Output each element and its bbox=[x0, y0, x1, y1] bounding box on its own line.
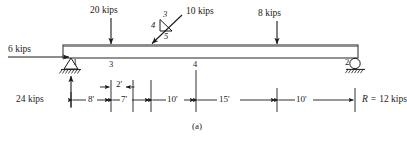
reaction-equals: = bbox=[371, 94, 376, 104]
load-label-20-kips: 20 kips bbox=[90, 6, 118, 16]
reaction-label-24-kips: 24 kips bbox=[16, 95, 44, 105]
load-label-6-kips: 6 kips bbox=[8, 45, 31, 55]
node-label-3: 3 bbox=[109, 60, 113, 69]
node-label-2: 2 bbox=[345, 58, 349, 67]
dimension-label-7ft: 7' bbox=[121, 95, 127, 104]
dimension-label-10ft-a: 10' bbox=[167, 95, 178, 104]
reaction-label-R: R=12 kips bbox=[362, 95, 407, 105]
reaction-symbol-R: R bbox=[362, 94, 368, 104]
load-label-8-kips: 8 kips bbox=[258, 9, 281, 19]
beam-body bbox=[63, 45, 358, 58]
dimension-label-8ft: 8' bbox=[88, 95, 94, 104]
dimension-label-2ft: 2' bbox=[116, 80, 122, 89]
node-label-1: 1 bbox=[73, 58, 77, 67]
load-label-10-kips: 10 kips bbox=[186, 7, 214, 17]
slope-rise-label: 3 bbox=[163, 10, 167, 19]
dimension-witness-lines bbox=[111, 70, 355, 112]
dimension-label-10ft-b: 10' bbox=[296, 95, 307, 104]
node-label-4: 4 bbox=[193, 60, 197, 69]
figure-caption: (a) bbox=[192, 122, 202, 131]
slope-triangle-graphic bbox=[160, 20, 172, 32]
slope-run-label: 4 bbox=[151, 21, 155, 30]
reaction-value: 12 kips bbox=[379, 94, 407, 104]
pin-support-icon bbox=[60, 58, 82, 74]
dimension-label-15ft: 15' bbox=[219, 95, 230, 104]
slope-hyp-label: 5 bbox=[164, 32, 168, 41]
